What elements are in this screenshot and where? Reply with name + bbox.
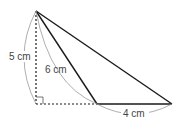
base-label: 4 cm <box>123 108 145 119</box>
triangle-diagram: 5 cm 6 cm 4 cm <box>0 0 180 128</box>
height-label: 5 cm <box>9 51 31 62</box>
triangle-long-side <box>36 11 172 104</box>
right-angle-marker <box>36 97 43 104</box>
triangle-slant-side <box>36 11 97 104</box>
slant-side-label: 6 cm <box>45 64 67 75</box>
